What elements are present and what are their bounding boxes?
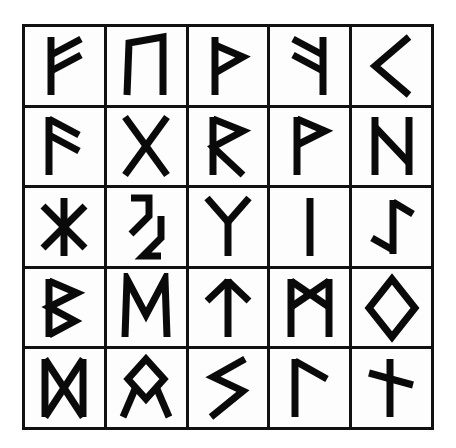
algiz-icon xyxy=(195,192,261,262)
rune-chart-page xyxy=(0,0,456,448)
mannaz-icon xyxy=(277,273,343,343)
ingwaz-icon xyxy=(359,273,425,343)
ehwaz-icon xyxy=(113,273,179,343)
rune-cell-fehu[interactable] xyxy=(25,27,107,108)
rune-cell-mannaz[interactable] xyxy=(270,269,352,350)
rune-cell-isa[interactable] xyxy=(270,188,352,269)
jera-icon xyxy=(113,192,179,262)
hagalaz-star-icon xyxy=(31,192,97,262)
rune-cell-ingwaz[interactable] xyxy=(352,269,434,350)
rune-cell-thurisaz[interactable] xyxy=(189,27,271,108)
hagalaz-icon xyxy=(359,111,425,181)
rune-cell-ansuz[interactable] xyxy=(25,108,107,189)
rune-cell-hagalaz[interactable] xyxy=(352,108,434,189)
wunjo-icon xyxy=(277,111,343,181)
rune-cell-dagaz[interactable] xyxy=(25,349,107,430)
gebo-icon xyxy=(113,111,179,181)
rune-cell-sowilo[interactable] xyxy=(189,349,271,430)
kenaz-icon xyxy=(359,31,425,101)
isa-icon xyxy=(277,192,343,262)
rune-cell-othala[interactable] xyxy=(107,349,189,430)
dagaz-icon xyxy=(31,353,97,423)
berkano-icon xyxy=(31,273,97,343)
rune-cell-wunjo[interactable] xyxy=(270,108,352,189)
naudhiz-cross-icon xyxy=(359,353,425,423)
rune-cell-tiwaz[interactable] xyxy=(189,269,271,350)
rune-cell-laguz[interactable] xyxy=(270,349,352,430)
rune-cell-berkano[interactable] xyxy=(25,269,107,350)
rune-grid xyxy=(22,24,434,430)
raidho-icon xyxy=(195,111,261,181)
ansuz-mirrored-icon xyxy=(277,31,343,101)
rune-cell-kenaz[interactable] xyxy=(352,27,434,108)
rune-cell-gebo[interactable] xyxy=(107,108,189,189)
rune-cell-ansuz-mirrored[interactable] xyxy=(270,27,352,108)
rune-cell-raidho[interactable] xyxy=(189,108,271,189)
rune-cell-uruz[interactable] xyxy=(107,27,189,108)
rune-cell-algiz[interactable] xyxy=(189,188,271,269)
eihwaz-icon xyxy=(359,192,425,262)
ansuz-icon xyxy=(31,111,97,181)
othala-icon xyxy=(113,353,179,423)
sowilo-icon xyxy=(195,353,261,423)
rune-cell-jera[interactable] xyxy=(107,188,189,269)
rune-cell-hagalaz-star[interactable] xyxy=(25,188,107,269)
thurisaz-icon xyxy=(195,31,261,101)
rune-cell-eihwaz[interactable] xyxy=(352,188,434,269)
laguz-icon xyxy=(277,353,343,423)
fehu-icon xyxy=(31,31,97,101)
uruz-icon xyxy=(113,31,179,101)
rune-cell-naudhiz-cross[interactable] xyxy=(352,349,434,430)
rune-cell-ehwaz[interactable] xyxy=(107,269,189,350)
tiwaz-icon xyxy=(195,273,261,343)
